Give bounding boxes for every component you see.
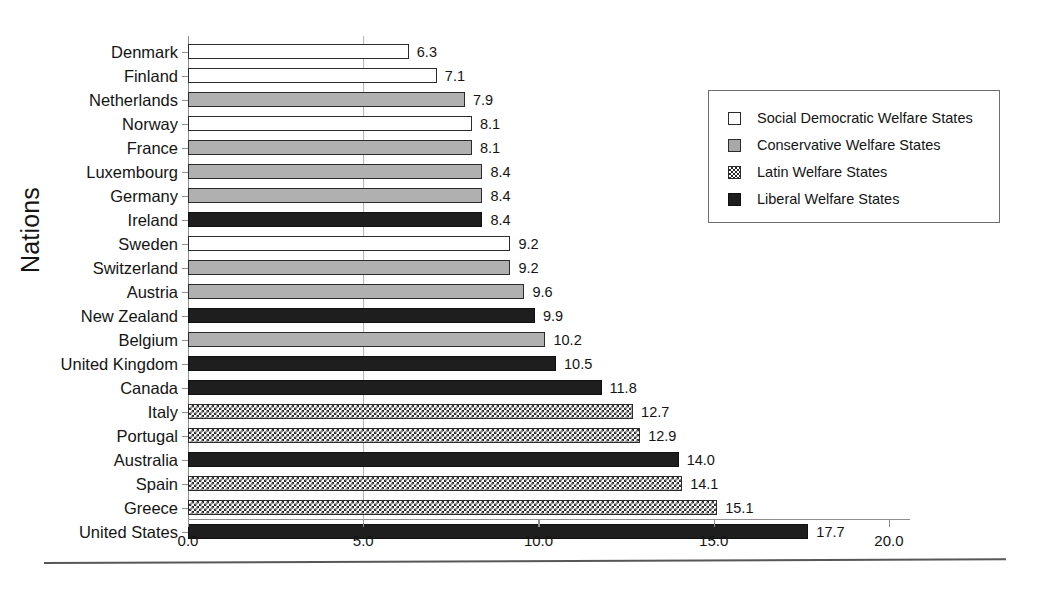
category-label: Australia xyxy=(114,449,178,471)
bar-row: Canada11.8 xyxy=(188,376,910,400)
category-label: Belgium xyxy=(118,329,178,351)
x-axis-tick xyxy=(538,520,539,527)
bar-row: Portugal12.9 xyxy=(188,424,910,448)
bar-value-label: 8.1 xyxy=(480,138,500,158)
x-axis-tick xyxy=(363,520,364,527)
category-label: Switzerland xyxy=(93,257,178,279)
bar[interactable] xyxy=(188,308,535,323)
bar-value-label: 15.1 xyxy=(725,498,753,518)
x-axis-tick xyxy=(714,520,715,527)
legend-label: Latin Welfare States xyxy=(757,164,887,180)
bar-value-label: 9.9 xyxy=(543,306,563,326)
bar[interactable] xyxy=(188,140,472,155)
bar[interactable] xyxy=(188,476,682,491)
bar[interactable] xyxy=(188,44,409,59)
legend-swatch-icon xyxy=(728,139,741,152)
bar-value-label: 7.9 xyxy=(473,90,493,110)
bar-value-label: 17.7 xyxy=(816,522,844,542)
category-label: New Zealand xyxy=(81,305,178,327)
category-label: Denmark xyxy=(111,41,178,63)
bar[interactable] xyxy=(188,380,602,395)
bar[interactable] xyxy=(188,188,482,203)
y-axis-title: Nations xyxy=(16,0,45,150)
bar-row: Finland7.1 xyxy=(188,64,910,88)
category-label: France xyxy=(127,137,178,159)
x-axis-tick xyxy=(889,520,890,527)
bar[interactable] xyxy=(188,116,472,131)
bar[interactable] xyxy=(188,68,437,83)
bar-row: New Zealand9.9 xyxy=(188,304,910,328)
bar-chart: Nations Denmark6.3Finland7.1Netherlands7… xyxy=(0,0,1043,596)
bar-value-label: 9.2 xyxy=(518,258,538,278)
x-axis-tick xyxy=(188,520,189,527)
bar[interactable] xyxy=(188,356,556,371)
bar-value-label: 12.7 xyxy=(641,402,669,422)
legend: Social Democratic Welfare StatesConserva… xyxy=(708,90,1000,223)
bar[interactable] xyxy=(188,404,633,419)
category-label: Canada xyxy=(120,377,178,399)
bar-row: Italy12.7 xyxy=(188,400,910,424)
bar-value-label: 10.2 xyxy=(553,330,581,350)
category-label: Germany xyxy=(110,185,178,207)
bar[interactable] xyxy=(188,260,510,275)
legend-item-social[interactable]: Social Democratic Welfare States xyxy=(728,109,973,127)
bar-value-label: 14.0 xyxy=(687,450,715,470)
legend-item-conservative[interactable]: Conservative Welfare States xyxy=(728,136,940,154)
category-label: Netherlands xyxy=(89,89,178,111)
legend-label: Liberal Welfare States xyxy=(757,191,899,207)
x-axis-tick-label: 5.0 xyxy=(353,532,374,549)
bar[interactable] xyxy=(188,164,482,179)
bar-row: Denmark6.3 xyxy=(188,40,910,64)
bar-row: United Kingdom10.5 xyxy=(188,352,910,376)
bar[interactable] xyxy=(188,92,465,107)
bar[interactable] xyxy=(188,212,482,227)
y-axis-title-text: Nations xyxy=(16,150,45,310)
legend-swatch-icon xyxy=(728,166,741,179)
bar[interactable] xyxy=(188,500,717,515)
bar-row: Belgium10.2 xyxy=(188,328,910,352)
bar-value-label: 8.4 xyxy=(490,186,510,206)
x-axis-tick-label: 0.0 xyxy=(178,532,199,549)
bar-row: Sweden9.2 xyxy=(188,232,910,256)
category-label: Luxembourg xyxy=(86,161,178,183)
legend-item-latin[interactable]: Latin Welfare States xyxy=(728,163,887,181)
bar-value-label: 9.2 xyxy=(518,234,538,254)
bar-row: Austria9.6 xyxy=(188,280,910,304)
category-label: Norway xyxy=(122,113,178,135)
x-axis-tick-label: 15.0 xyxy=(699,532,728,549)
bar-value-label: 9.6 xyxy=(532,282,552,302)
bar-value-label: 10.5 xyxy=(564,354,592,374)
bar-value-label: 12.9 xyxy=(648,426,676,446)
category-label: Finland xyxy=(124,65,178,87)
bar-row: Spain14.1 xyxy=(188,472,910,496)
bar[interactable] xyxy=(188,236,510,251)
legend-item-liberal[interactable]: Liberal Welfare States xyxy=(728,190,899,208)
category-label: Sweden xyxy=(118,233,178,255)
bar-value-label: 7.1 xyxy=(445,66,465,86)
bar-value-label: 8.4 xyxy=(490,162,510,182)
bar[interactable] xyxy=(188,452,679,467)
category-label: Ireland xyxy=(128,209,178,231)
bar-value-label: 8.4 xyxy=(490,210,510,230)
x-axis-tick-label: 10.0 xyxy=(524,532,553,549)
bar-value-label: 11.8 xyxy=(610,378,637,398)
category-label: Italy xyxy=(148,401,178,423)
bar-value-label: 6.3 xyxy=(417,42,437,62)
category-label: Austria xyxy=(127,281,178,303)
category-label: Portugal xyxy=(117,425,178,447)
category-label: United Kingdom xyxy=(61,353,178,375)
legend-swatch-icon xyxy=(728,193,741,206)
bar-row: Switzerland9.2 xyxy=(188,256,910,280)
legend-label: Conservative Welfare States xyxy=(757,137,940,153)
legend-swatch-icon xyxy=(728,112,741,125)
bar[interactable] xyxy=(188,284,524,299)
bar[interactable] xyxy=(188,428,640,443)
bar[interactable] xyxy=(188,332,545,347)
page-rule-divider xyxy=(44,559,1006,564)
bar-row: Greece15.1 xyxy=(188,496,910,520)
bar-row: Australia14.0 xyxy=(188,448,910,472)
bar-value-label: 14.1 xyxy=(690,474,718,494)
category-label: Spain xyxy=(136,473,178,495)
legend-label: Social Democratic Welfare States xyxy=(757,110,973,126)
bar-value-label: 8.1 xyxy=(480,114,500,134)
